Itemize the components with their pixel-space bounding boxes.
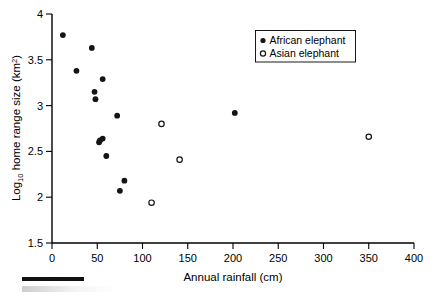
legend-marker-asian-elephant (260, 51, 265, 56)
y-axis-title-prefix: Log (10, 182, 22, 201)
x-tick-label: 100 (133, 252, 151, 264)
x-axis-title: Annual rainfall (cm) (183, 271, 282, 283)
x-tick-label: 0 (49, 252, 55, 264)
x-tick-label: 400 (405, 252, 423, 264)
y-tick-label: 2 (37, 191, 43, 203)
x-axis-ticks (52, 243, 414, 249)
y-tick-label: 2.5 (28, 145, 43, 157)
data-point (366, 134, 371, 139)
x-tick-label: 50 (91, 252, 103, 264)
legend-label-african-elephant: African elephant (270, 34, 346, 46)
y-tick-label: 4 (37, 8, 43, 20)
series-african-elephant (60, 32, 238, 194)
data-point (100, 136, 106, 142)
y-tick-label: 3 (37, 100, 43, 112)
y-axis-title-middle: home range size (km (10, 63, 22, 174)
data-point (74, 68, 80, 74)
axes (52, 14, 414, 243)
data-point (93, 96, 99, 102)
y-axis-title-sub: 10 (16, 174, 25, 182)
x-tick-label: 300 (314, 252, 332, 264)
caption-smudge (22, 286, 118, 292)
data-point (122, 178, 128, 184)
y-axis-title: Log10 home range size (km2) (10, 55, 25, 201)
data-point (232, 110, 238, 116)
x-tick-label: 250 (269, 252, 287, 264)
y-tick-label: 1.5 (28, 237, 43, 249)
y-axis-ticks (46, 14, 52, 243)
x-tick-label: 350 (360, 252, 378, 264)
data-point (100, 76, 106, 82)
data-point (114, 113, 120, 119)
y-axis-tick-labels: 1.5 2 2.5 3 3.5 4 (28, 8, 43, 249)
x-tick-label: 200 (224, 252, 242, 264)
data-point (92, 89, 98, 95)
x-tick-label: 150 (179, 252, 197, 264)
scatter-plot: 1.5 2 2.5 3 3.5 4 0 50 100 150 200 250 (0, 0, 435, 296)
y-tick-label: 3.5 (28, 54, 43, 66)
data-point (89, 45, 95, 51)
series-asian-elephant (149, 121, 372, 205)
caption-rule (22, 277, 84, 281)
data-point (177, 157, 182, 162)
data-point (103, 153, 109, 159)
data-point (149, 200, 154, 205)
legend-label-asian-elephant: Asian elephant (270, 47, 340, 59)
y-axis-title-suffix: ) (10, 55, 22, 59)
legend: African elephant Asian elephant (256, 31, 356, 63)
figure-container: 1.5 2 2.5 3 3.5 4 0 50 100 150 200 250 (0, 0, 435, 296)
data-point (117, 188, 123, 194)
legend-marker-african-elephant (260, 38, 265, 43)
x-axis-tick-labels: 0 50 100 150 200 250 300 350 400 (49, 252, 423, 264)
data-point (60, 32, 66, 38)
data-point (159, 121, 164, 126)
